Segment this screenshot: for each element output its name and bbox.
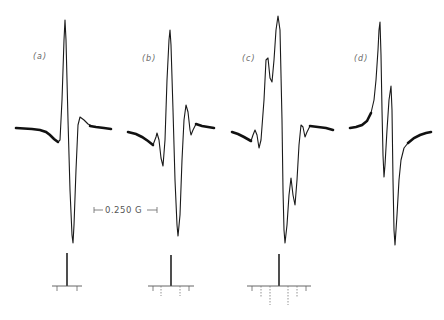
panel-label-a: (a) [33,52,47,61]
stick-diagram-b [148,255,194,296]
epr-figure [0,0,444,320]
spectrum-a [16,20,111,243]
panel-label-c: (c) [242,54,256,63]
spectrum-c [232,16,333,243]
stick-diagram-c [247,254,311,305]
panel-label-d: (d) [354,54,368,63]
scale-bar-label: 0.250 G [105,205,142,215]
panel-label-b: (b) [142,54,156,63]
stick-diagram-a [52,253,82,291]
